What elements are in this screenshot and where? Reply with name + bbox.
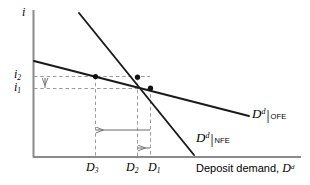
curve-label-nfe: Dd|NFE: [196, 130, 230, 148]
x-tick-symbol-D1: D: [148, 160, 157, 174]
x-tick-subscript-D3: 3: [95, 166, 99, 175]
economics-diagram: i i2 i1 D3 D2 D1 Dd|OFE Dd|NFE Deposit d…: [0, 0, 310, 185]
x-axis-label-text: Deposit demand,: [196, 162, 282, 174]
curve-label-ofe-regime: OFE: [270, 112, 286, 121]
x-axis-label-symbol: D: [282, 161, 291, 175]
x-tick-label-D2: D2: [126, 160, 138, 175]
curve-label-nfe-regime: NFE: [214, 136, 230, 145]
x-tick-subscript-D1: 1: [157, 166, 161, 175]
x-tick-label-D3: D3: [86, 160, 98, 175]
x-tick-symbol-D2: D: [126, 160, 135, 174]
point-D3-i2: [93, 74, 98, 79]
curve-deposit-demand-nfe: [79, 13, 194, 155]
diagram-canvas: [0, 0, 310, 185]
point-D2-i2: [135, 75, 140, 80]
axis-lines: [33, 10, 301, 158]
x-axis-label: Deposit demand, Dd: [196, 161, 294, 176]
y-tick-label-i1: i1: [14, 80, 21, 95]
y-tick-subscript-i1: 1: [17, 86, 21, 95]
curve-label-nfe-symbol: D: [196, 130, 205, 145]
x-tick-symbol-D3: D: [86, 160, 95, 174]
x-tick-label-D1: D1: [148, 160, 160, 175]
curve-label-ofe-symbol: D: [252, 106, 261, 121]
curve-label-ofe: Dd|OFE: [252, 106, 286, 124]
point-D1-i1: [148, 86, 153, 91]
x-axis-label-superscript: d: [291, 163, 294, 170]
y-axis-label: i: [22, 5, 25, 20]
guide-lines: [34, 77, 151, 158]
x-tick-subscript-D2: 2: [135, 166, 139, 175]
